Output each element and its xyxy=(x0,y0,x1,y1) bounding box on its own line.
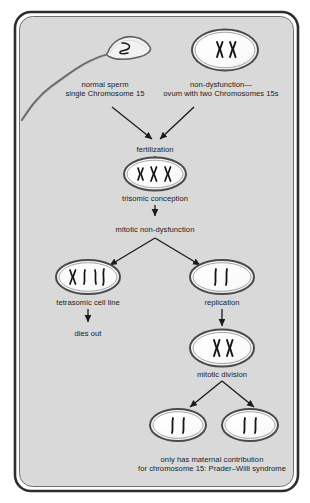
diagram-figure: normal sperm single Chromosome 15 non-dy… xyxy=(0,0,310,503)
daughter-cell-left xyxy=(150,409,206,441)
diagram-canvas xyxy=(0,0,310,503)
replication-cell xyxy=(190,260,254,294)
ovum-cell xyxy=(192,30,258,71)
daughter-cell-right xyxy=(222,409,278,441)
tetrasomic-cell xyxy=(56,260,120,294)
mitotic-division-cell xyxy=(190,330,254,367)
zygote-cell xyxy=(124,158,186,191)
